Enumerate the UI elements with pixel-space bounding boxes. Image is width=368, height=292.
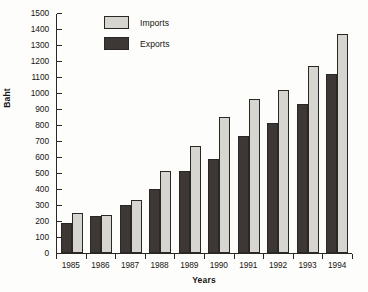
bar-exports-1991: [238, 136, 249, 253]
x-axis-tick: [115, 254, 116, 259]
y-tick-label: 500: [35, 168, 49, 178]
bar-imports-1993: [308, 66, 319, 253]
legend-swatch-exports: [104, 37, 129, 50]
bar-exports-1985: [61, 223, 72, 253]
bar-group-1990: [205, 14, 235, 253]
y-tick-label: 800: [35, 120, 49, 130]
x-axis-label-1985: 1985: [56, 260, 86, 270]
x-axis-tick: [145, 254, 146, 259]
bar-exports-1988: [149, 189, 160, 253]
y-axis-title: Baht: [2, 58, 12, 138]
x-axis-label-1986: 1986: [86, 260, 116, 270]
y-tick-label: 900: [35, 104, 49, 114]
bar-imports-1985: [72, 213, 83, 253]
bar-imports-1992: [278, 90, 289, 253]
y-tick-label: 100: [35, 232, 49, 242]
bar-group-1989: [175, 14, 205, 253]
bar-imports-1990: [219, 117, 230, 253]
legend-swatch-imports: [104, 16, 129, 29]
bar-imports-1994: [337, 34, 348, 253]
bar-group-1993: [293, 14, 323, 253]
x-axis-tick: [56, 254, 57, 259]
chart-legend: ImportsExports: [104, 16, 169, 58]
bar-exports-1990: [208, 159, 219, 253]
y-tick-label: 1300: [31, 40, 49, 50]
x-axis-label-1989: 1989: [174, 260, 204, 270]
x-axis-label-1987: 1987: [115, 260, 145, 270]
x-axis-label-1992: 1992: [263, 260, 293, 270]
bar-exports-1989: [179, 171, 190, 253]
x-axis-title: Years: [56, 275, 352, 285]
bar-imports-1986: [101, 215, 112, 253]
legend-label-exports: Exports: [140, 39, 169, 49]
y-tick-label: 300: [35, 200, 49, 210]
y-tick-label: 1100: [31, 72, 49, 82]
y-tick-label: 700: [35, 136, 49, 146]
y-tick-label: 1200: [31, 56, 49, 66]
bar-exports-1992: [267, 123, 278, 253]
x-axis-tick: [204, 254, 205, 259]
x-axis-label-1994: 1994: [322, 260, 352, 270]
x-axis-label-1988: 1988: [145, 260, 175, 270]
x-axis-tick: [234, 254, 235, 259]
y-tick-label: 600: [35, 152, 49, 162]
x-axis-tick: [322, 254, 323, 259]
bar-group-1992: [264, 14, 294, 253]
bar-exports-1987: [120, 205, 131, 253]
bar-exports-1993: [297, 104, 308, 253]
legend-label-imports: Imports: [140, 18, 169, 28]
bar-imports-1989: [190, 146, 201, 253]
y-tick-label: 1400: [31, 24, 49, 34]
x-axis-tick: [352, 254, 353, 259]
bar-exports-1994: [326, 74, 337, 253]
bar-imports-1987: [131, 200, 142, 253]
y-tick-label: 0: [44, 248, 49, 258]
y-tick-label: 400: [35, 184, 49, 194]
legend-item-exports: Exports: [104, 37, 169, 50]
bars-layer: [57, 14, 352, 253]
x-axis-labels: 1985198619871988198919901991199219931994: [56, 260, 352, 270]
y-tick-label: 200: [35, 216, 49, 226]
bar-group-1994: [323, 14, 353, 253]
x-axis-tick: [174, 254, 175, 259]
x-axis-label-1993: 1993: [293, 260, 323, 270]
y-tick-label: 1000: [31, 88, 49, 98]
bar-imports-1991: [249, 99, 260, 253]
y-tick-label: 1500: [31, 8, 49, 18]
plot-area: 0100200300400500600700800900100011001200…: [56, 14, 352, 254]
x-axis-label-1991: 1991: [234, 260, 264, 270]
x-axis-tick: [86, 254, 87, 259]
legend-item-imports: Imports: [104, 16, 169, 29]
x-axis-tick: [263, 254, 264, 259]
bar-exports-1986: [90, 216, 101, 253]
bar-group-1991: [234, 14, 264, 253]
x-axis-label-1990: 1990: [204, 260, 234, 270]
bar-chart: Baht 01002003004005006007008009001000110…: [0, 0, 368, 292]
bar-group-1985: [57, 14, 87, 253]
x-axis-tick: [293, 254, 294, 259]
bar-imports-1988: [160, 171, 171, 253]
